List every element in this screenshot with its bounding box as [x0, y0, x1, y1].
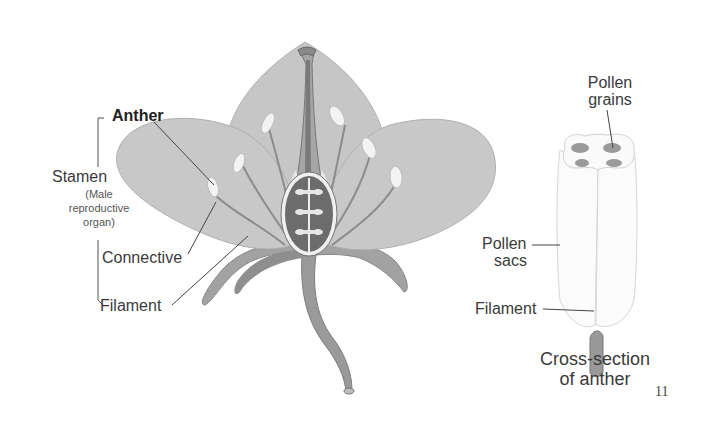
- label-anther: Anther: [112, 108, 164, 125]
- caption-line-1: Cross-section: [510, 350, 680, 369]
- label-pollen-sacs-2: sacs: [494, 253, 527, 270]
- label-filament: Filament: [100, 298, 161, 315]
- stem-end: [344, 388, 354, 394]
- label-pollen-sacs-1: Pollen: [482, 236, 526, 253]
- anther-top: [563, 134, 634, 170]
- anther-cross-section: [557, 134, 637, 376]
- label-stamen-note-2: reproductive: [42, 203, 156, 215]
- sepal-right: [316, 243, 407, 292]
- label-pollen-grains-2: grains: [575, 92, 645, 109]
- page-number: 11: [655, 384, 668, 400]
- flower-stem: [302, 255, 352, 392]
- label-stamen-note-1: (Male: [62, 189, 136, 201]
- label-stamen-note-3: organ): [62, 217, 136, 229]
- label-stamen: Stamen: [52, 169, 107, 186]
- pollen-sac-left: [557, 150, 598, 327]
- pollen-sac-right: [596, 150, 637, 326]
- label-pollen-grains-1: Pollen: [575, 75, 645, 92]
- label-filament-cross-section: Filament: [475, 301, 536, 318]
- label-connective: Connective: [102, 250, 182, 267]
